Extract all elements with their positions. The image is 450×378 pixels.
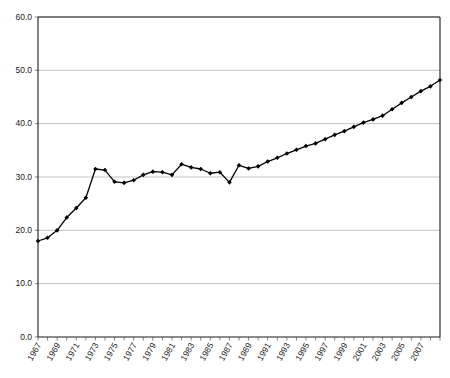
- data-point-marker: [313, 141, 318, 146]
- data-point-marker: [285, 151, 290, 156]
- data-point-marker: [36, 239, 41, 244]
- x-axis-tick-label: 1987: [217, 341, 235, 363]
- data-point-marker: [198, 167, 203, 172]
- x-axis-tick-label: 1969: [44, 341, 62, 363]
- x-axis-tick-label: 1989: [236, 341, 254, 363]
- data-point-marker: [256, 164, 261, 169]
- x-axis-tick-label: 1985: [197, 341, 215, 363]
- x-axis-tick-label: 1971: [63, 341, 81, 363]
- x-axis-tick-label: 2005: [389, 341, 407, 363]
- data-point-marker: [352, 125, 357, 130]
- y-axis-tick-label: 60.0: [15, 12, 32, 22]
- x-axis-tick-label: 2001: [351, 341, 369, 363]
- data-point-marker: [304, 144, 309, 149]
- data-series-line: [38, 80, 440, 241]
- y-axis-tick-label: 0.0: [20, 332, 32, 342]
- data-point-marker: [332, 133, 337, 138]
- x-axis-tick-label: 1995: [293, 341, 311, 363]
- y-axis-tick-label: 10.0: [15, 278, 32, 288]
- x-axis-tick-label: 2003: [370, 341, 388, 363]
- x-axis-tick-label: 1973: [83, 341, 101, 363]
- data-point-marker: [189, 165, 194, 170]
- data-point-marker: [371, 117, 376, 122]
- y-gridlines: 0.010.020.030.040.050.060.0: [15, 12, 440, 342]
- x-axis-tick-label: 1975: [102, 341, 120, 363]
- x-axis-tick-label: 1981: [159, 341, 177, 363]
- data-point-marker: [294, 148, 299, 153]
- x-axis: 1967196919711973197519771979198119831985…: [25, 337, 440, 362]
- data-point-marker: [323, 137, 328, 142]
- x-axis-tick-label: 1997: [312, 341, 330, 363]
- data-point-markers: [36, 78, 443, 244]
- y-axis-tick-label: 30.0: [15, 172, 32, 182]
- data-point-marker: [208, 171, 213, 176]
- data-point-marker: [246, 166, 251, 171]
- data-point-marker: [122, 181, 127, 186]
- x-axis-tick-label: 1999: [331, 341, 349, 363]
- x-axis-tick-label: 1979: [140, 341, 158, 363]
- data-point-marker: [275, 156, 280, 161]
- x-axis-tick-label: 1983: [178, 341, 196, 363]
- x-axis-tick-label: 2007: [408, 341, 426, 363]
- x-axis-tick-label: 1991: [255, 341, 273, 363]
- y-axis-tick-label: 20.0: [15, 225, 32, 235]
- data-point-marker: [265, 159, 270, 164]
- y-axis-tick-label: 50.0: [15, 65, 32, 75]
- data-point-marker: [160, 170, 165, 175]
- chart-container: 0.010.020.030.040.050.060.01967196919711…: [0, 0, 450, 378]
- x-axis-tick-label: 1993: [274, 341, 292, 363]
- line-chart: 0.010.020.030.040.050.060.01967196919711…: [0, 0, 450, 378]
- data-point-marker: [93, 167, 98, 172]
- x-axis-tick-label: 1967: [25, 341, 43, 363]
- data-point-marker: [151, 169, 156, 174]
- y-axis-tick-label: 40.0: [15, 118, 32, 128]
- data-point-marker: [342, 129, 347, 134]
- data-point-marker: [361, 120, 366, 125]
- x-axis-tick-label: 1977: [121, 341, 139, 363]
